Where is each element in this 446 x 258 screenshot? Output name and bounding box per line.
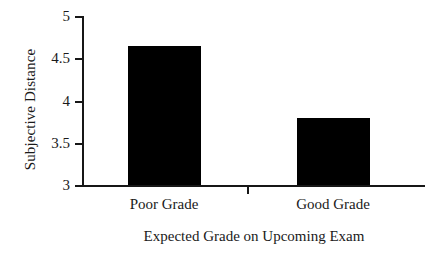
x-tick-middle	[247, 186, 249, 194]
y-tick-3-5	[75, 143, 83, 145]
bar-chart-figure: Subjective Distance 5 4.5 4 3.5 3 Poor G…	[0, 0, 446, 258]
y-tick-label-3-wrap: 3	[36, 178, 70, 194]
y-tick-label-3-5: 3.5	[36, 136, 70, 151]
y-tick-4-5	[75, 58, 83, 60]
x-axis-line	[82, 185, 425, 187]
y-tick-label-4-5-wrap: 4.5	[36, 51, 70, 67]
y-tick-5	[75, 16, 83, 18]
y-tick-label-3: 3	[36, 178, 70, 193]
y-tick-label-4-wrap: 4	[36, 94, 70, 110]
bar-good-grade	[297, 118, 370, 185]
bar-poor-grade	[128, 46, 201, 185]
y-tick-label-5: 5	[36, 9, 70, 24]
y-tick-label-3-5-wrap: 3.5	[36, 136, 70, 152]
x-axis-title: Expected Grade on Upcoming Exam	[82, 228, 426, 245]
y-tick-4	[75, 101, 83, 103]
x-tick-label-good-grade: Good Grade	[258, 196, 408, 213]
y-tick-3	[75, 185, 83, 187]
y-tick-label-4-5: 4.5	[36, 51, 70, 66]
y-tick-label-5-wrap: 5	[36, 9, 70, 25]
y-tick-label-4: 4	[36, 94, 70, 109]
x-tick-label-poor-grade: Poor Grade	[89, 196, 239, 213]
